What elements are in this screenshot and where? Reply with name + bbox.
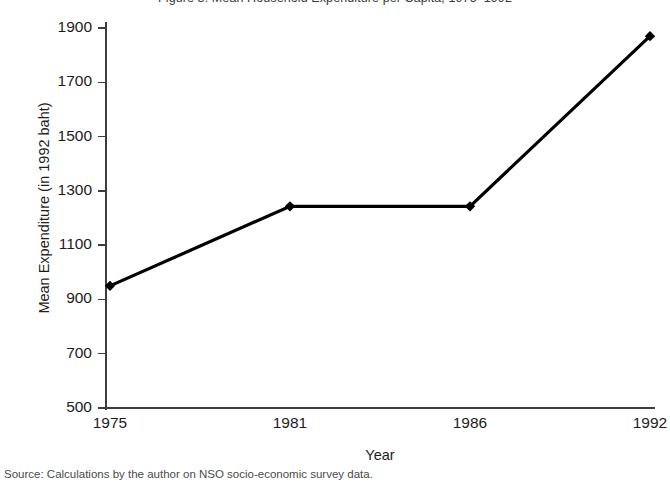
x-axis-title: Year xyxy=(105,447,655,463)
y-tick-label: 1100 xyxy=(18,236,92,252)
y-tick-label: 1500 xyxy=(18,128,92,144)
y-tick-label: 500 xyxy=(18,399,92,415)
y-tick-label: 1900 xyxy=(18,19,92,35)
figure-source-caption-clipped: Source: Calculations by the author on NS… xyxy=(4,468,670,482)
x-tick-label: 1975 xyxy=(65,414,155,432)
y-axis-title: Mean Expenditure (in 1992 baht) xyxy=(36,38,52,378)
data-point-marker xyxy=(285,201,295,211)
y-tick-label: 1700 xyxy=(18,73,92,89)
figure-title-clipped: Figure 3. Mean Household Expenditure per… xyxy=(0,0,670,7)
line-series xyxy=(105,28,655,408)
y-tick-label: 1300 xyxy=(18,182,92,198)
series-line xyxy=(110,36,650,286)
x-tick-label: 1981 xyxy=(245,414,335,432)
y-tick-label: 700 xyxy=(18,345,92,361)
data-point-marker xyxy=(105,281,115,291)
y-tick-label: 900 xyxy=(18,290,92,306)
plot-area xyxy=(105,28,655,408)
x-tick-label: 1992 xyxy=(605,414,670,432)
x-tick-label: 1986 xyxy=(425,414,515,432)
